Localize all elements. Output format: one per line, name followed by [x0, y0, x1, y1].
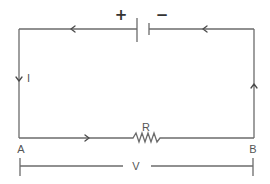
battery-symbol [137, 18, 149, 42]
battery-negative-label: − [156, 6, 169, 24]
node-a-label: A [17, 143, 25, 155]
circuit-diagram: + − I R A B V [0, 0, 270, 184]
node-b-label: B [249, 143, 256, 155]
voltage-label: V [132, 160, 140, 172]
resistor-symbol [130, 133, 163, 142]
resistor-label: R [142, 121, 150, 133]
current-label: I [27, 72, 30, 84]
battery-positive-label: + [115, 6, 128, 24]
